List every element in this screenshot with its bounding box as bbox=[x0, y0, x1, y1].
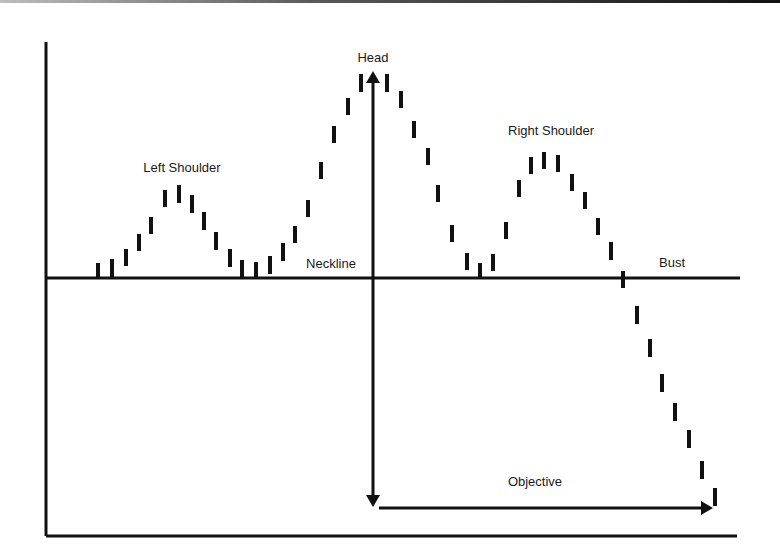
price-bar bbox=[713, 488, 717, 506]
price-bar bbox=[635, 306, 639, 324]
price-bar bbox=[137, 234, 141, 251]
price-bar bbox=[504, 222, 508, 239]
price-bar bbox=[465, 253, 469, 270]
axes bbox=[46, 42, 740, 536]
price-bar bbox=[332, 126, 336, 143]
annotation-labels: Left Shoulder Head Right Shoulder Neckli… bbox=[143, 50, 685, 489]
price-bar bbox=[190, 195, 194, 213]
price-bar bbox=[700, 461, 704, 479]
arrow-up-icon bbox=[366, 71, 380, 83]
head-and-shoulders-chart: Left Shoulder Head Right Shoulder Neckli… bbox=[0, 0, 780, 550]
price-bar bbox=[346, 98, 350, 115]
price-bar bbox=[240, 260, 244, 277]
price-bars bbox=[96, 74, 717, 506]
left-shoulder-label: Left Shoulder bbox=[143, 160, 221, 175]
price-bar bbox=[621, 271, 625, 288]
right-shoulder-label: Right Shoulder bbox=[508, 123, 595, 138]
price-bar bbox=[426, 148, 430, 165]
price-bar bbox=[228, 249, 232, 267]
price-bar bbox=[293, 226, 297, 243]
head-label: Head bbox=[357, 50, 388, 65]
arrow-down-icon bbox=[366, 495, 380, 507]
price-bar bbox=[254, 262, 258, 277]
bust-label: Bust bbox=[659, 255, 685, 270]
price-bar bbox=[609, 242, 613, 260]
arrow-right-icon bbox=[701, 501, 713, 515]
price-bar bbox=[583, 192, 587, 209]
price-bar bbox=[517, 180, 521, 197]
objective-label: Objective bbox=[508, 474, 562, 489]
price-bar bbox=[436, 185, 440, 202]
price-bar bbox=[478, 263, 482, 278]
price-bar bbox=[648, 339, 652, 357]
price-bar bbox=[412, 121, 416, 138]
neckline-label: Neckline bbox=[306, 256, 356, 271]
price-bar bbox=[149, 217, 153, 234]
price-bar bbox=[529, 157, 533, 174]
price-bar bbox=[570, 174, 574, 191]
price-bar bbox=[687, 430, 691, 448]
price-bar bbox=[281, 243, 285, 261]
price-bar bbox=[96, 263, 100, 277]
price-bar bbox=[385, 74, 389, 92]
price-bar bbox=[660, 374, 664, 392]
price-bar bbox=[110, 259, 114, 277]
price-bar bbox=[673, 403, 677, 421]
price-bar bbox=[359, 74, 363, 92]
price-bar bbox=[124, 249, 128, 266]
price-bar bbox=[596, 218, 600, 235]
price-bar bbox=[556, 155, 560, 172]
price-bar bbox=[319, 162, 323, 179]
price-bar bbox=[542, 152, 546, 169]
price-bar bbox=[177, 185, 181, 203]
price-bar bbox=[491, 254, 495, 271]
price-bar bbox=[214, 232, 218, 250]
price-bar bbox=[163, 190, 167, 207]
price-bar bbox=[450, 225, 454, 242]
price-bar bbox=[268, 256, 272, 274]
chart-canvas: Left Shoulder Head Right Shoulder Neckli… bbox=[0, 0, 780, 550]
price-bar bbox=[399, 91, 403, 108]
price-bar bbox=[306, 200, 310, 217]
price-bar bbox=[202, 212, 206, 230]
